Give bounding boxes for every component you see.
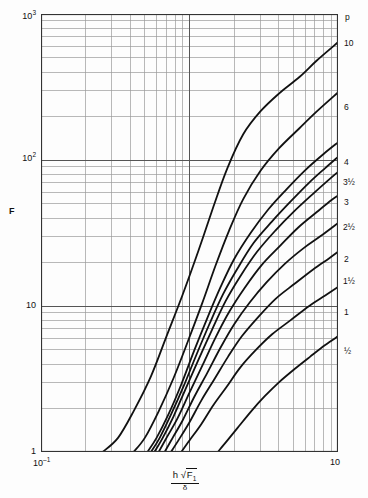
data-curves [103, 42, 338, 452]
y-tick-label-1000: 103 [6, 9, 36, 21]
curve-label-6: 6 [344, 102, 349, 112]
chart-canvas [41, 14, 338, 452]
x-axis-title-numerator: h √F1 [171, 470, 200, 483]
y-tick-label-100: 102 [6, 151, 36, 163]
curve-label-10: 10 [344, 38, 353, 48]
curve-p-2 [165, 223, 338, 452]
curve-label-2: 2 [344, 254, 349, 264]
curve-label-1: 1 [344, 307, 349, 317]
y-axis-title: F [9, 206, 15, 216]
curve-p-1 [181, 287, 338, 452]
curve-p-½ [218, 336, 338, 452]
x-tick-label-left: 10–1 [33, 456, 50, 468]
curve-label-4: 4 [344, 157, 349, 167]
x-axis-title-fraction: h √F1 δ [171, 470, 200, 492]
curve-label-3: 3 [344, 197, 349, 207]
curve-label-half: ½ [344, 346, 351, 356]
y-tick-label-1: 1 [6, 446, 36, 456]
chart-page: 103 102 10 1 F 10–1 10 h √F1 δ p 10 6 4 … [0, 0, 368, 498]
curve-label-3-half: 3½ [343, 177, 355, 187]
y-tick-label-10: 10 [6, 300, 36, 310]
curve-p-10 [103, 42, 338, 452]
x-axis-title-denominator: δ [171, 483, 200, 492]
x-axis-title: h √F1 δ [150, 470, 220, 492]
x-tick-label-right: 10 [330, 457, 340, 467]
legend-header-p: p [345, 12, 350, 22]
plot-area [41, 14, 338, 452]
curve-label-1-half: 1½ [343, 276, 355, 286]
curve-label-2-half: 2½ [343, 222, 355, 232]
